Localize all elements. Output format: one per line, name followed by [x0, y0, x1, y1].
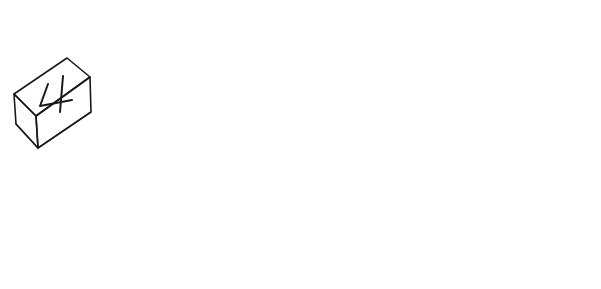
- block-4-left-face: [14, 94, 38, 148]
- block-4-right-face: [36, 77, 91, 148]
- block-4-top-face: [14, 58, 90, 116]
- illustration-canvas: Hand-drawn multiplication worksheet illu…: [0, 0, 601, 289]
- block-4: [14, 58, 91, 148]
- line-drawing: [0, 0, 601, 289]
- block-4-bottom-edge: [16, 112, 91, 148]
